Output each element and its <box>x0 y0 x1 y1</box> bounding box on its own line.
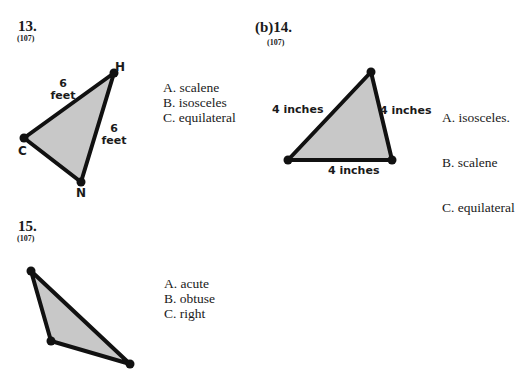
side-label-left: 4 inches <box>272 103 323 116</box>
choice-b[interactable]: B. isosceles <box>163 95 236 110</box>
side-label-bottom: 4 inches <box>328 164 379 177</box>
choice-c[interactable]: C. equilateral <box>442 200 515 215</box>
triangle-figure <box>0 260 140 370</box>
question-number: 15. <box>18 219 37 234</box>
answer-choices: A. scalene B. isosceles C. equilateral <box>163 80 236 125</box>
answer-choices: A. isosceles. B. scalene C. equilateral <box>442 80 515 245</box>
choice-b[interactable]: B. obtuse <box>164 291 215 306</box>
lesson-reference: (107) <box>17 34 34 43</box>
question-prefix: (b) <box>255 19 273 35</box>
choice-a[interactable]: A. isosceles. <box>442 110 515 125</box>
lesson-reference: (107) <box>267 38 284 47</box>
choice-a[interactable]: A. acute <box>164 276 215 291</box>
side-label-right: 4 inches <box>380 104 431 117</box>
triangle-figure <box>290 68 430 168</box>
question-number: 13. <box>18 19 37 34</box>
choice-b[interactable]: B. scalene <box>442 155 515 170</box>
choice-a[interactable]: A. scalene <box>163 80 236 95</box>
vertex-label-h: H <box>115 60 125 74</box>
vertex-label-c: C <box>18 144 27 158</box>
answer-choices: A. acute B. obtuse C. right <box>164 276 215 321</box>
choice-c[interactable]: C. right <box>164 306 215 321</box>
lesson-reference: (107) <box>17 234 34 243</box>
vertex-label-n: N <box>76 186 86 200</box>
side-label-ch: 6 feet <box>48 78 78 102</box>
question-number: (b)14. <box>255 20 292 35</box>
choice-c[interactable]: C. equilateral <box>163 110 236 125</box>
side-label-hn: 6 feet <box>99 123 129 147</box>
